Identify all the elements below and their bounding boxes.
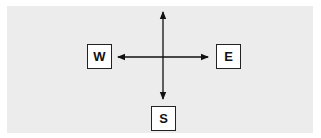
south-label: S [159,111,168,126]
west-label-box: W [87,44,112,69]
east-label: E [224,49,233,64]
west-label: W [93,49,105,64]
south-label-box: S [151,106,176,131]
east-label-box: E [216,44,241,69]
